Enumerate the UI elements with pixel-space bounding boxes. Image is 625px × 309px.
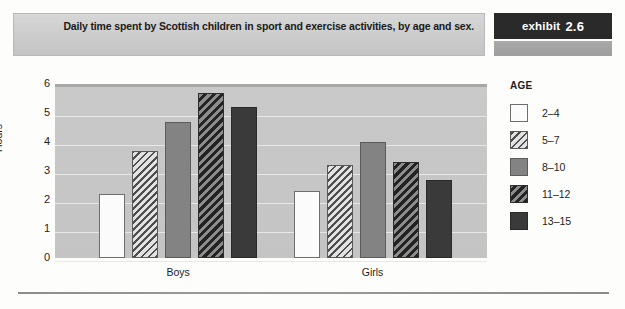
exhibit-badge: exhibit 2.6 bbox=[494, 13, 612, 39]
y-axis-tick: 4 bbox=[28, 135, 50, 147]
exhibit-badge-word: exhibit bbox=[522, 20, 560, 32]
legend-item-label: 13–15 bbox=[542, 215, 571, 227]
bar-girls-13-15 bbox=[426, 180, 452, 258]
legend-item: 5–7 bbox=[510, 126, 615, 153]
y-axis-tick: 1 bbox=[28, 222, 50, 234]
gridline bbox=[55, 174, 487, 175]
legend-item: 13–15 bbox=[510, 207, 615, 234]
bar-girls-8-10 bbox=[360, 142, 386, 258]
bar-girls-5-7 bbox=[327, 165, 353, 258]
legend-item: 2–4 bbox=[510, 99, 615, 126]
exhibit-badge-underbar bbox=[494, 41, 612, 56]
bar-girls-2-4 bbox=[294, 191, 320, 258]
legend-item-label: 11–12 bbox=[542, 188, 570, 200]
y-axis-tick-labels: 0123456 bbox=[28, 84, 50, 258]
legend: AGE 2–45–78–1011–1213–15 bbox=[510, 80, 615, 234]
y-axis-tick: 2 bbox=[28, 193, 50, 205]
legend-rows: 2–45–78–1011–1213–15 bbox=[510, 99, 615, 234]
plot-area bbox=[55, 84, 487, 258]
bar-boys-13-15 bbox=[231, 107, 257, 258]
gridline bbox=[55, 261, 487, 262]
legend-item-label: 5–7 bbox=[542, 134, 560, 146]
legend-item: 8–10 bbox=[510, 153, 615, 180]
y-axis-tick: 3 bbox=[28, 164, 50, 176]
bar-boys-5-7 bbox=[132, 151, 158, 258]
exhibit-header: Daily time spent by Scottish children in… bbox=[13, 13, 612, 56]
light-hatch-swatch bbox=[510, 131, 528, 149]
gridline bbox=[55, 116, 487, 117]
legend-item-label: 8–10 bbox=[542, 161, 565, 173]
page-title: Daily time spent by Scottish children in… bbox=[30, 19, 474, 34]
exhibit-badge-number: 2.6 bbox=[565, 19, 584, 34]
x-axis-label-boys: Boys bbox=[166, 266, 189, 278]
y-axis-tick: 5 bbox=[28, 106, 50, 118]
legend-title: AGE bbox=[510, 80, 615, 91]
dark-hatch-swatch bbox=[510, 185, 528, 203]
y-axis-tick: 0 bbox=[28, 251, 50, 263]
legend-item: 11–12 bbox=[510, 180, 615, 207]
legend-item-label: 2–4 bbox=[542, 107, 560, 119]
bar-boys-8-10 bbox=[165, 122, 191, 258]
bar-boys-11-12 bbox=[198, 93, 224, 258]
y-axis-title: Hours bbox=[0, 124, 4, 152]
bar-boys-2-4 bbox=[99, 194, 125, 258]
y-axis-tick: 6 bbox=[28, 77, 50, 89]
dark-solid-swatch bbox=[510, 212, 528, 230]
bar-girls-11-12 bbox=[393, 162, 419, 258]
gridline bbox=[55, 145, 487, 146]
white-solid-swatch bbox=[510, 104, 528, 122]
title-block: Daily time spent by Scottish children in… bbox=[13, 13, 485, 56]
gray-solid-swatch bbox=[510, 158, 528, 176]
footer-rule bbox=[18, 292, 609, 294]
x-axis-label-girls: Girls bbox=[362, 266, 384, 278]
